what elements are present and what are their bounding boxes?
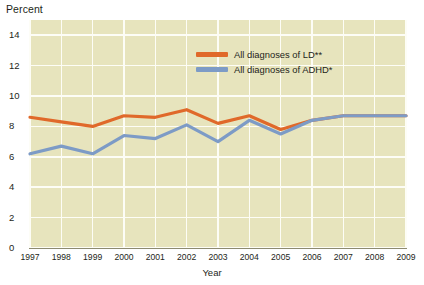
x-axis-line <box>29 248 407 249</box>
x-axis-tick-label: 1997 <box>13 252 47 262</box>
x-axis-tick-label: 2007 <box>326 252 360 262</box>
y-axis-tick-label: 10 <box>9 90 31 101</box>
chart-legend: All diagnoses of LD**All diagnoses of AD… <box>196 47 333 77</box>
x-axis-title: Year <box>0 267 424 278</box>
y-axis-tick-label: 4 <box>9 181 31 192</box>
x-axis-tick-label: 2002 <box>170 252 204 262</box>
x-axis-tick-label: 1999 <box>76 252 110 262</box>
y-axis-tick-label: 2 <box>9 212 31 223</box>
legend-item: All diagnoses of LD** <box>196 47 333 62</box>
x-axis-tick-label: 2001 <box>138 252 172 262</box>
y-axis-tick-label: 6 <box>9 151 31 162</box>
x-axis-tick-label: 2000 <box>107 252 141 262</box>
series-line-adhd <box>30 116 406 154</box>
x-axis-tick-label: 1998 <box>44 252 78 262</box>
x-axis-tick-label: 2006 <box>295 252 329 262</box>
y-axis-tick-label: 8 <box>9 120 31 131</box>
line-chart: Percent 02468101214 19971998199920002001… <box>0 0 424 285</box>
x-axis-tick-label: 2008 <box>358 252 392 262</box>
x-axis-tick-label: 2004 <box>232 252 266 262</box>
y-axis-tick-label: 12 <box>9 60 31 71</box>
x-axis-tick-label: 2003 <box>201 252 235 262</box>
legend-label: All diagnoses of LD** <box>234 49 322 60</box>
legend-label: All diagnoses of ADHD* <box>234 64 333 75</box>
y-axis-tick-label: 14 <box>9 29 31 40</box>
series-line-ld <box>30 110 406 130</box>
x-axis-tick-label: 2005 <box>264 252 298 262</box>
y-axis-title: Percent <box>6 3 43 15</box>
legend-color-swatch <box>196 67 228 71</box>
legend-item: All diagnoses of ADHD* <box>196 62 333 77</box>
legend-color-swatch <box>196 52 228 56</box>
x-axis-tick-label: 2009 <box>389 252 423 262</box>
